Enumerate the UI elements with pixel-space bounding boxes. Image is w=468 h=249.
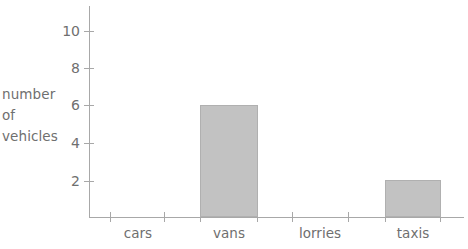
y-tick-6 [84, 105, 94, 106]
y-axis-line [89, 6, 90, 218]
x-axis-label-lorries: lorries [286, 224, 354, 242]
bar-chart: number of vehicles 10 8 6 4 2 cars vans … [0, 0, 468, 249]
y-tick-label-10-wrap: 10 [48, 24, 80, 38]
y-tick-2 [84, 181, 94, 182]
y-tick-label-8: 8 [48, 61, 80, 75]
y-tick-label-4: 4 [48, 136, 80, 150]
x-tick-cars-start [110, 212, 111, 222]
y-tick-label-4-wrap: 4 [48, 136, 80, 150]
y-tick-label-2-wrap: 2 [48, 174, 80, 188]
x-tick-cars-end [164, 212, 165, 222]
x-axis-line [89, 217, 464, 218]
bar-taxis [385, 180, 441, 217]
y-tick-8 [84, 68, 94, 69]
y-tick-label-8-wrap: 8 [48, 61, 80, 75]
x-tick-lorries-end [348, 212, 349, 222]
y-tick-10 [84, 31, 94, 32]
y-tick-4 [84, 143, 94, 144]
bar-vans [200, 105, 258, 217]
y-tick-label-6: 6 [48, 98, 80, 112]
x-axis-label-vans: vans [195, 224, 263, 242]
y-tick-label-10: 10 [48, 24, 80, 38]
y-tick-label-2: 2 [48, 174, 80, 188]
x-axis-label-taxis: taxis [379, 224, 447, 242]
y-tick-label-6-wrap: 6 [48, 98, 80, 112]
x-axis-label-cars: cars [104, 224, 172, 242]
x-tick-lorries-start [292, 212, 293, 222]
